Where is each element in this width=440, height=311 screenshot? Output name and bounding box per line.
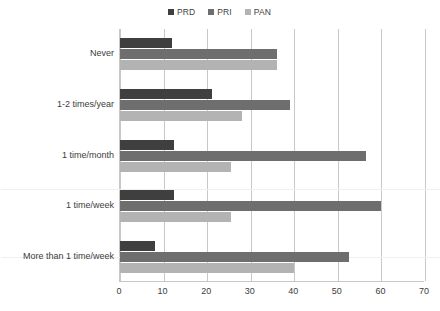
legend-label: PRI [217, 8, 231, 17]
bar-group [120, 140, 424, 172]
category-label: Never [0, 49, 114, 58]
legend-entry-pri[interactable]: PRI [208, 8, 231, 17]
bar-pan[interactable] [120, 162, 231, 172]
x-tick-label: 60 [375, 287, 385, 296]
bar-prd[interactable] [120, 140, 174, 150]
value-axis-labels: 010203040506070 [0, 287, 439, 303]
legend-swatch-icon [245, 9, 251, 15]
plot-area [119, 29, 424, 282]
bar-pri[interactable] [120, 252, 349, 262]
legend-entry-pan[interactable]: PAN [245, 8, 271, 17]
bar-pan[interactable] [120, 111, 242, 121]
bar-pri[interactable] [120, 201, 381, 211]
x-tick-label: 0 [116, 287, 121, 296]
bar-prd[interactable] [120, 241, 155, 251]
x-tick-label: 70 [419, 287, 429, 296]
legend-label: PRD [177, 8, 195, 17]
x-tick-label: 30 [245, 287, 255, 296]
category-axis-labels: Never1-2 times/year1 time/month1 time/we… [0, 29, 114, 282]
bar-group [120, 190, 424, 222]
x-tick-label: 40 [288, 287, 298, 296]
gridline-70 [425, 29, 426, 281]
category-label: 1 time/week [0, 201, 114, 210]
category-label: More than 1 time/week [0, 252, 114, 261]
bar-pan[interactable] [120, 212, 231, 222]
bar-pri[interactable] [120, 100, 290, 110]
x-tick-label: 10 [158, 287, 168, 296]
bar-series-container [120, 29, 424, 281]
bar-group [120, 89, 424, 121]
bar-pan[interactable] [120, 60, 277, 70]
legend-swatch-icon [208, 9, 214, 15]
bar-prd[interactable] [120, 190, 174, 200]
bar-prd[interactable] [120, 38, 172, 48]
legend-swatch-icon [168, 9, 174, 15]
bar-pri[interactable] [120, 49, 277, 59]
x-tick-label: 20 [201, 287, 211, 296]
x-tick-label: 50 [332, 287, 342, 296]
bar-prd[interactable] [120, 89, 212, 99]
legend-entry-prd[interactable]: PRD [168, 8, 195, 17]
legend-label: PAN [254, 8, 271, 17]
bar-group [120, 38, 424, 70]
bar-pan[interactable] [120, 263, 294, 273]
category-label: 1-2 times/year [0, 100, 114, 109]
bar-group [120, 241, 424, 273]
bar-pri[interactable] [120, 151, 366, 161]
chart-legend: PRDPRIPAN [0, 8, 439, 17]
category-label: 1 time/month [0, 151, 114, 160]
